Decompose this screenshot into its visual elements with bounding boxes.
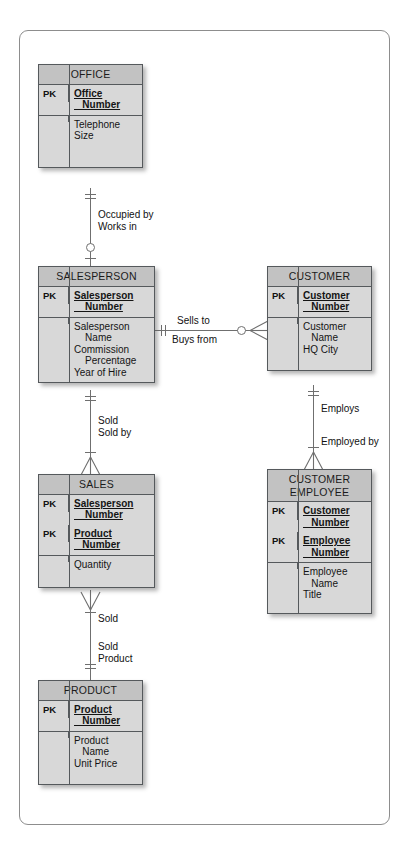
attr-line: Number [74, 301, 151, 313]
tick-salesperson-sales-one-b [85, 400, 96, 401]
tick-salesperson-customer-one-b [165, 325, 166, 336]
entity-customer-employee-pk-blank [268, 563, 298, 569]
attr-line: Number [74, 715, 139, 727]
label-sells-to: Sells to [177, 315, 210, 328]
entity-customer[interactable]: CUSTOMER PK Customer Number Customer Nam… [267, 266, 372, 371]
attr-line: Number [74, 539, 151, 551]
tick-customeremployee-bar [308, 447, 319, 448]
label-sold-product-1: Sold [98, 641, 118, 654]
entity-sales-body: PK Salesperson Number PK Product Number … [39, 495, 154, 587]
label-works-in: Works in [98, 221, 137, 234]
entity-salesperson-row-pk: PK Salesperson Number [39, 287, 154, 317]
crowsfoot-customeremployee [303, 451, 324, 471]
attr-line: HQ City [303, 344, 368, 356]
entity-office-key-attributes: Office Number [69, 85, 142, 115]
attr-line: Customer [303, 321, 368, 333]
tick-office-one-b [85, 198, 96, 199]
entity-sales-pk-blank [39, 556, 69, 562]
entity-customer-pk-blank [268, 318, 298, 324]
attr-line: Telephone [74, 119, 139, 131]
entity-salesperson-title: SALESPERSON [39, 267, 154, 287]
connector-office-salesperson [90, 188, 91, 266]
attr-line: Name [74, 746, 139, 758]
entity-customer-employee-key-attributes-1: Customer Number [298, 502, 371, 532]
attr-line: Quantity [74, 559, 151, 571]
entity-customer-row-pk: PK Customer Number [268, 287, 371, 317]
entity-sales-pk-marker-1: PK [39, 495, 69, 513]
entity-office-title: OFFICE [39, 65, 142, 85]
tick-salesperson-sales-one [85, 396, 96, 397]
attr-line: Office [74, 88, 139, 100]
entity-product-row-pk: PK Product Number [39, 701, 142, 731]
entity-product[interactable]: PRODUCT PK Product Number Product Name U… [38, 680, 143, 785]
attr-line: Product [74, 704, 139, 716]
tick-sales-product-bar [85, 612, 96, 613]
attr-line: Number [303, 517, 368, 529]
tick-customer-one-b [308, 395, 319, 396]
label-sold-product-2: Product [98, 653, 132, 666]
attr-line: Title [303, 589, 368, 601]
entity-salesperson-attributes: Salesperson Name Commission Percentage Y… [69, 318, 154, 383]
attr-line: Commission [74, 344, 151, 356]
attr-line: Salesperson [74, 321, 151, 333]
entity-customer-title: CUSTOMER [268, 267, 371, 287]
entity-customer-employee-row-attrs: Employee Name Title [268, 562, 371, 613]
label-sold: Sold [98, 415, 118, 428]
attr-line: Employee [303, 566, 368, 578]
entity-customer-employee-key-attributes-2: Employee Number [298, 532, 371, 562]
entity-salesperson-pk-marker: PK [39, 287, 69, 305]
crowsfoot-customer [249, 320, 269, 341]
attr-line: Number [74, 99, 139, 111]
entity-office-row-attrs: Telephone Size [39, 115, 142, 167]
attr-line: Name [303, 332, 368, 344]
entity-product-title: PRODUCT [39, 681, 142, 701]
label-employed-by: Employed by [321, 436, 379, 449]
attr-line: Customer [303, 505, 368, 517]
entity-product-pk-marker: PK [39, 701, 69, 719]
attr-line: Name [74, 332, 151, 344]
entity-customer-body: PK Customer Number Customer Name HQ City [268, 287, 371, 370]
entity-salesperson-body: PK Salesperson Number Salesperson Name C… [39, 287, 154, 383]
entity-sales-attributes: Quantity [69, 556, 154, 575]
label-occupied-by: Occupied by [98, 209, 154, 222]
crowsfoot-sales-top [80, 456, 101, 476]
entity-salesperson[interactable]: SALESPERSON PK Salesperson Number Salesp… [38, 266, 155, 383]
entity-sales-row-attrs: Quantity [39, 555, 154, 587]
entity-customer-key-attributes: Customer Number [298, 287, 371, 317]
entity-customer-employee[interactable]: CUSTOMER EMPLOYEE PK Customer Number PK … [267, 469, 372, 614]
entity-office[interactable]: OFFICE PK Office Number Telephone Size [38, 64, 143, 168]
label-sold-2: Sold [98, 613, 118, 626]
optional-circle-salesperson-customer [237, 326, 246, 335]
entity-sales[interactable]: SALES PK Salesperson Number PK Product N… [38, 474, 155, 588]
er-diagram-canvas: Occupied by Works in Sells to Buys from … [0, 0, 413, 853]
entity-sales-row-pk2: PK Product Number [39, 525, 154, 555]
entity-customer-employee-attributes: Employee Name Title [298, 563, 371, 605]
entity-customer-employee-body: PK Customer Number PK Employee Number Em… [268, 502, 371, 613]
attr-line: Percentage [74, 355, 151, 367]
attr-line: Customer [303, 290, 368, 302]
tick-salesperson-one [85, 258, 96, 259]
entity-customer-employee-pk-marker-2: PK [268, 532, 298, 550]
attr-line: Salesperson [74, 498, 151, 510]
entity-customer-pk-marker: PK [268, 287, 298, 305]
entity-sales-pk-marker-2: PK [39, 525, 69, 543]
attr-line: Product [74, 735, 139, 747]
entity-office-body: PK Office Number Telephone Size [39, 85, 142, 167]
entity-sales-title: SALES [39, 475, 154, 495]
attr-line: Name [303, 578, 368, 590]
entity-sales-key-attributes-2: Product Number [69, 525, 154, 555]
entity-product-row-attrs: Product Name Unit Price [39, 731, 142, 784]
crowsfoot-sales-bottom [80, 591, 101, 611]
tick-office-one [85, 194, 96, 195]
entity-office-attributes: Telephone Size [69, 116, 142, 146]
entity-product-key-attributes: Product Number [69, 701, 142, 731]
attr-line: Number [303, 547, 368, 559]
tick-product-one [85, 664, 96, 665]
entity-product-body: PK Product Number Product Name Unit Pric… [39, 701, 142, 784]
entity-customer-row-attrs: Customer Name HQ City [268, 317, 371, 370]
attr-line: Size [74, 130, 139, 142]
attr-line: Number [303, 301, 368, 313]
entity-customer-employee-row-pk2: PK Employee Number [268, 532, 371, 562]
tick-salesperson-customer-one [161, 325, 162, 336]
entity-salesperson-row-attrs: Salesperson Name Commission Percentage Y… [39, 317, 154, 383]
